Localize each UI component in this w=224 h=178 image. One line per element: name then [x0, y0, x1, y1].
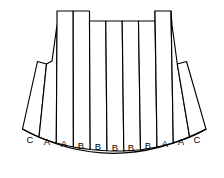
panel-label: A: [178, 136, 185, 147]
panel-label: B: [112, 142, 118, 153]
figure-container: C A A B B B B B A A C: [0, 0, 224, 178]
panel-segment: [73, 11, 90, 150]
panel-segment: [122, 21, 140, 151]
panel-label: C: [27, 134, 34, 145]
panel-segment: [56, 11, 73, 147]
panel-segment: [139, 11, 158, 150]
panel-label: B: [145, 140, 151, 151]
panel-label: A: [61, 138, 68, 149]
panel-label: B: [78, 140, 84, 151]
panel-segment: [106, 21, 124, 151]
panel-label: B: [95, 141, 101, 152]
panel-label: A: [44, 136, 51, 147]
panel-label: B: [128, 142, 134, 153]
panel-label: A: [162, 138, 169, 149]
panel-label: C: [194, 134, 201, 145]
segmented-fan-diagram: C A A B B B B B A A C: [0, 0, 224, 178]
panel-segment: [155, 11, 173, 147]
panel-segment: [90, 21, 108, 151]
